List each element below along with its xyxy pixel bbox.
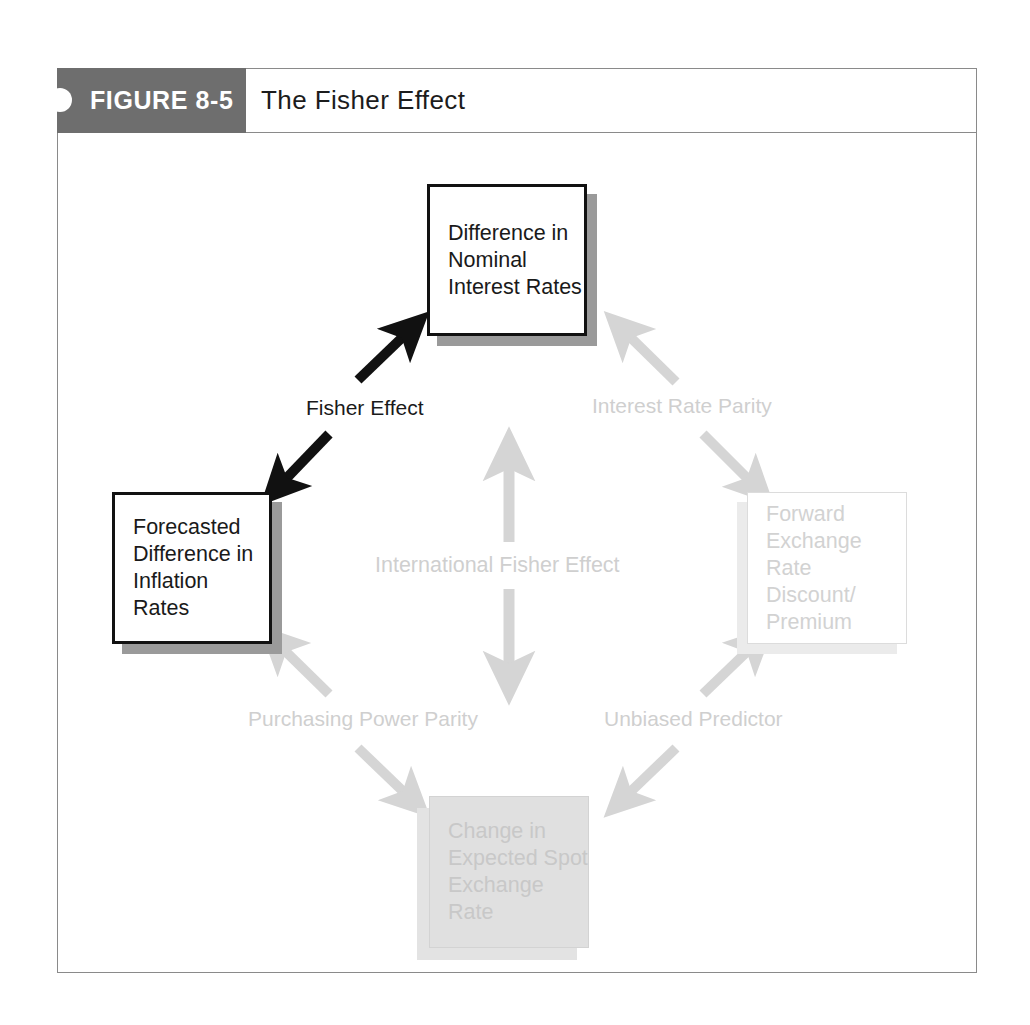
edge-label-unbiased-predictor: Unbiased Predictor xyxy=(597,707,790,731)
figure-header: FIGURE 8-5 The Fisher Effect xyxy=(57,68,977,133)
node-label: Forward Exchange Rate Discount/ Premium xyxy=(748,501,906,636)
edge-label-purchasing-power-parity: Purchasing Power Parity xyxy=(241,707,485,731)
tab-notch-icon xyxy=(48,88,72,112)
diagram-canvas: Difference in Nominal Interest Rates For… xyxy=(57,134,977,973)
node-change-in-expected-spot-exchange-rate: Change in Expected Spot Exchange Rate xyxy=(429,796,589,948)
node-label: Change in Expected Spot Exchange Rate xyxy=(430,818,588,926)
node-face: Forward Exchange Rate Discount/ Premium xyxy=(747,492,907,644)
figure-number-tab: FIGURE 8-5 xyxy=(57,68,246,133)
edge-label-international-fisher-effect: International Fisher Effect xyxy=(368,553,627,578)
edge-label-fisher-effect: Fisher Effect xyxy=(299,396,431,420)
node-face: Difference in Nominal Interest Rates xyxy=(427,184,587,336)
node-label: Forecasted Difference in Inflation Rates xyxy=(115,514,269,622)
node-difference-in-nominal-interest-rates: Difference in Nominal Interest Rates xyxy=(427,184,587,336)
node-face: Forecasted Difference in Inflation Rates xyxy=(112,492,272,644)
figure-title: The Fisher Effect xyxy=(261,85,465,116)
node-forecasted-difference-in-inflation-rates: Forecasted Difference in Inflation Rates xyxy=(112,492,272,644)
node-face: Change in Expected Spot Exchange Rate xyxy=(429,796,589,948)
figure-number-label: FIGURE 8-5 xyxy=(90,86,234,115)
edge-label-interest-rate-parity: Interest Rate Parity xyxy=(585,394,779,418)
node-label: Difference in Nominal Interest Rates xyxy=(430,220,582,301)
node-forward-exchange-rate-discount-premium: Forward Exchange Rate Discount/ Premium xyxy=(747,492,907,644)
